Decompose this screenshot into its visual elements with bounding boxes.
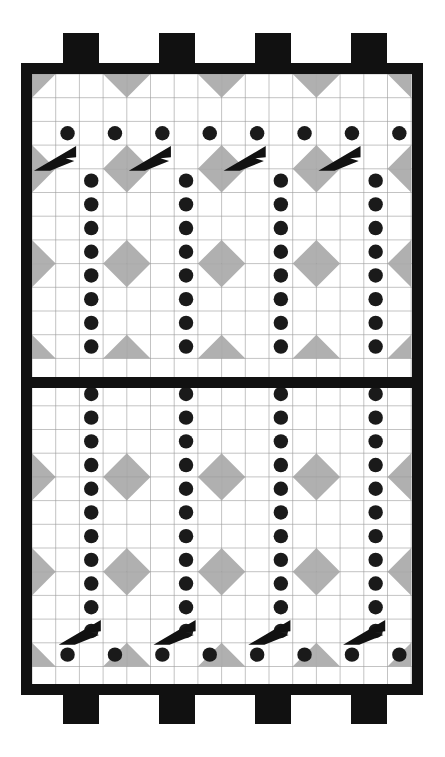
dot-43 [368, 245, 382, 259]
dot-81 [368, 387, 382, 401]
dot-50 [84, 434, 98, 448]
dot-30 [179, 316, 193, 330]
dot-47 [368, 339, 382, 353]
dot-2 [155, 126, 169, 140]
dot-14 [345, 647, 359, 661]
dot-82 [368, 410, 382, 424]
dot-42 [368, 221, 382, 235]
pattern-svg: Quilt Block Pattern Diagram [0, 0, 445, 757]
dot-51 [84, 458, 98, 472]
dot-56 [84, 576, 98, 590]
dot-72 [274, 434, 288, 448]
dot-28 [179, 268, 193, 282]
dot-63 [179, 482, 193, 496]
dot-29 [179, 292, 193, 306]
dot-41 [368, 197, 382, 211]
artwork-canvas: Quilt Block Pattern Diagram [0, 0, 445, 757]
dot-24 [179, 173, 193, 187]
dot-17 [84, 197, 98, 211]
dot-88 [368, 553, 382, 567]
dot-9 [108, 647, 122, 661]
dot-31 [179, 339, 193, 353]
dot-53 [84, 505, 98, 519]
dot-25 [179, 197, 193, 211]
dot-38 [274, 316, 288, 330]
dot-79 [274, 600, 288, 614]
dot-15 [392, 647, 406, 661]
dot-35 [274, 245, 288, 259]
dot-67 [179, 576, 193, 590]
dot-12 [250, 647, 264, 661]
dot-32 [274, 173, 288, 187]
frame-mid-divider [21, 377, 423, 388]
dot-83 [368, 434, 382, 448]
dot-19 [84, 245, 98, 259]
dot-66 [179, 553, 193, 567]
dot-73 [274, 458, 288, 472]
dot-34 [274, 221, 288, 235]
dot-90 [368, 600, 382, 614]
frame-bottom [21, 684, 423, 695]
dot-76 [274, 529, 288, 543]
dot-22 [84, 316, 98, 330]
dot-36 [274, 268, 288, 282]
dot-89 [368, 576, 382, 590]
dot-48 [84, 387, 98, 401]
dot-39 [274, 339, 288, 353]
dot-26 [179, 221, 193, 235]
dot-59 [179, 387, 193, 401]
dot-64 [179, 505, 193, 519]
dot-45 [368, 292, 382, 306]
dot-0 [60, 126, 74, 140]
dot-21 [84, 292, 98, 306]
dot-5 [297, 126, 311, 140]
dot-87 [368, 529, 382, 543]
dot-8 [60, 647, 74, 661]
dot-86 [368, 505, 382, 519]
dot-3 [203, 126, 217, 140]
dot-1 [108, 126, 122, 140]
dot-23 [84, 339, 98, 353]
dot-57 [84, 600, 98, 614]
frame-top [21, 63, 423, 74]
dot-7 [392, 126, 406, 140]
dot-46 [368, 316, 382, 330]
dot-37 [274, 292, 288, 306]
dot-16 [84, 173, 98, 187]
dot-85 [368, 482, 382, 496]
dot-27 [179, 245, 193, 259]
dot-4 [250, 126, 264, 140]
dot-20 [84, 268, 98, 282]
dot-84 [368, 458, 382, 472]
dot-49 [84, 410, 98, 424]
dot-74 [274, 482, 288, 496]
dot-18 [84, 221, 98, 235]
dot-11 [203, 647, 217, 661]
dot-75 [274, 505, 288, 519]
dot-65 [179, 529, 193, 543]
dot-52 [84, 482, 98, 496]
dot-77 [274, 553, 288, 567]
dot-62 [179, 458, 193, 472]
dot-54 [84, 529, 98, 543]
dot-10 [155, 647, 169, 661]
dot-60 [179, 410, 193, 424]
dot-40 [368, 173, 382, 187]
dot-61 [179, 434, 193, 448]
dot-78 [274, 576, 288, 590]
dot-55 [84, 553, 98, 567]
dot-71 [274, 410, 288, 424]
dot-44 [368, 268, 382, 282]
dot-68 [179, 600, 193, 614]
dot-33 [274, 197, 288, 211]
dot-6 [345, 126, 359, 140]
dot-13 [297, 647, 311, 661]
dot-70 [274, 387, 288, 401]
